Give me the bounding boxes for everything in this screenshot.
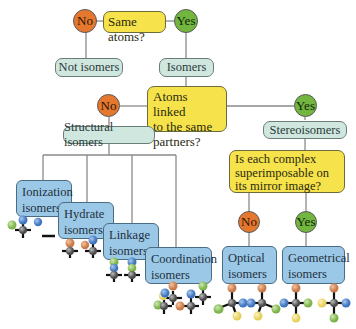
optical-molecule-icon	[215, 284, 281, 321]
ionization-molecule-icon	[8, 216, 56, 239]
linkage-molecule-icon	[106, 258, 140, 283]
coordination-molecule-icon	[154, 282, 223, 315]
hydrate-molecule-icon	[62, 236, 101, 259]
molecule-illustrations	[0, 0, 356, 329]
geometrical-molecule-icon	[280, 284, 351, 323]
